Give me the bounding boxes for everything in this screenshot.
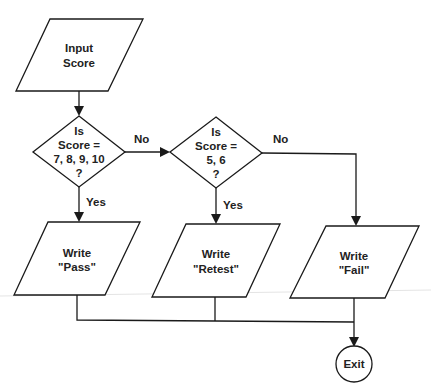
retest-parallelogram bbox=[152, 224, 280, 297]
decision1-label-line3: 7, 8, 9, 10 bbox=[53, 153, 104, 165]
edge-label-yes-2: Yes bbox=[223, 199, 243, 211]
arrowhead-icon bbox=[351, 216, 361, 226]
edge-outputs-to-exit bbox=[77, 295, 359, 347]
fail-label-line1: Write bbox=[340, 250, 369, 262]
retest-label-line2: "Retest" bbox=[193, 263, 239, 275]
pass-label-line2: "Pass" bbox=[58, 261, 96, 273]
edge-decision1-to-decision2: No bbox=[125, 133, 170, 157]
node-write-fail: Write "Fail" bbox=[290, 226, 419, 298]
decision2-label-line2: Score = bbox=[195, 140, 237, 152]
node-decision-retest-range: Is Score = 5, 6 ? bbox=[170, 117, 262, 188]
exit-label: Exit bbox=[343, 358, 364, 370]
retest-label-line1: Write bbox=[202, 248, 231, 260]
arrowhead-icon bbox=[160, 147, 170, 157]
flowchart-canvas: Input Score Is Score = 7, 8, 9, 10 ? No … bbox=[0, 0, 431, 389]
node-write-retest: Write "Retest" bbox=[152, 224, 280, 297]
edge-label-yes-1: Yes bbox=[86, 196, 106, 208]
node-exit: Exit bbox=[336, 346, 372, 382]
edge-label-no-2: No bbox=[273, 133, 288, 145]
decision1-label-line4: ? bbox=[75, 167, 82, 179]
pass-label-line1: Write bbox=[63, 247, 92, 259]
decision2-label-line1: Is bbox=[211, 126, 221, 138]
fail-label-line2: "Fail" bbox=[339, 264, 370, 276]
edge-label-no-1: No bbox=[134, 133, 149, 145]
decision2-label-line3: 5, 6 bbox=[206, 154, 225, 166]
edge-decision2-to-retest: Yes bbox=[211, 188, 243, 224]
node-input-score: Input Score bbox=[16, 19, 143, 91]
decision2-label-line4: ? bbox=[212, 168, 219, 180]
input-label-line1: Input bbox=[65, 42, 93, 54]
decision1-label-line1: Is bbox=[74, 125, 84, 137]
edge-decision2-to-fail: No bbox=[262, 133, 361, 226]
node-write-pass: Write "Pass" bbox=[14, 222, 140, 295]
arrowhead-icon bbox=[74, 106, 84, 116]
node-decision-pass-range: Is Score = 7, 8, 9, 10 ? bbox=[33, 116, 125, 187]
input-parallelogram bbox=[16, 19, 143, 91]
fail-parallelogram bbox=[290, 226, 419, 298]
edge-decision1-to-pass: Yes bbox=[74, 187, 106, 222]
input-label-line2: Score bbox=[63, 57, 95, 69]
edge-input-to-decision1 bbox=[74, 91, 84, 116]
arrowhead-icon bbox=[211, 214, 221, 224]
arrowhead-icon bbox=[74, 212, 84, 222]
decision1-label-line2: Score = bbox=[58, 139, 100, 151]
connector-line bbox=[262, 153, 356, 217]
